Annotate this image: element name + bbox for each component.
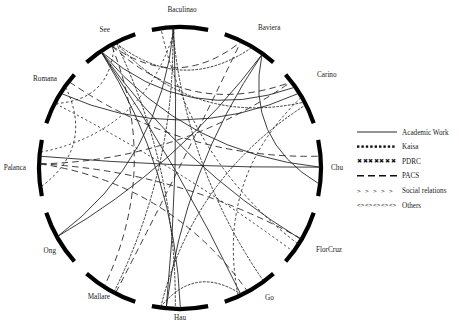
legend-sample-x: ✖ (379, 158, 384, 164)
chord-go-baculinao[interactable] (173, 28, 263, 280)
legend-sample-chevron: > (373, 187, 377, 194)
legend-label-social-relations: Social relations (402, 187, 447, 195)
legend-sample-x: ✖ (357, 158, 362, 164)
node-label-chu: Chu (331, 164, 343, 172)
node-arc-see[interactable] (87, 34, 136, 62)
legend-label-others: Others (402, 202, 421, 210)
legend-sample-dot (357, 145, 359, 147)
legend-sample-dot (370, 145, 372, 147)
node-arc-chu[interactable] (318, 140, 321, 196)
legend-sample-dot (375, 145, 377, 147)
node-label-baculinao: Baculinao (167, 6, 197, 14)
node-label-hau: Hau (174, 314, 186, 322)
legend-sample-dot (379, 145, 381, 147)
legend-sample-x: ✖ (385, 158, 390, 164)
legend-sample-chevron: > (389, 187, 393, 194)
legend-label-academic-work: Academic Work (402, 129, 449, 137)
node-label-go: Go (265, 294, 274, 302)
legend-sample-dot (383, 145, 385, 147)
legend-sample-diamond: <> (381, 201, 389, 208)
legend-sample-diamond: <> (389, 201, 397, 208)
chord-romana-palanca[interactable] (41, 87, 75, 186)
legend-sample-diamond: <> (373, 201, 381, 208)
node-label-palanca: Palanca (4, 164, 27, 172)
chord-palanca-carino[interactable] (40, 82, 291, 164)
chord-see-baviera[interactable] (116, 43, 251, 70)
chord-chu-baviera[interactable] (259, 55, 319, 184)
legend-sample-dot (392, 145, 394, 147)
chord-hau-go[interactable] (161, 282, 241, 307)
node-label-florcruz: FlorCruz (316, 246, 342, 254)
node-arc-palanca[interactable] (39, 140, 42, 196)
legend-sample-x: ✖ (391, 158, 396, 164)
chord-florcruz-baculinao[interactable] (161, 29, 298, 243)
legend-item-kaisa[interactable]: Kaisa (357, 143, 419, 151)
legend-sample-chevron: > (381, 187, 385, 194)
chord-go-carino[interactable] (233, 98, 301, 296)
chord-hau-baviera[interactable] (166, 55, 262, 308)
legend-item-social-relations[interactable]: >>>>>Social relations (357, 187, 447, 195)
legend-sample-chevron: > (365, 187, 369, 194)
node-label-carino: Carino (317, 71, 337, 79)
node-label-romana: Romana (33, 75, 58, 83)
legend-sample-chevron: > (357, 187, 361, 194)
chord-see-baviera[interactable] (112, 42, 241, 68)
node-label-ong: Ong (44, 247, 57, 255)
legend: Academic WorkKaisa✖✖✖✖✖✖✖PDRCPACS>>>>>So… (357, 129, 449, 210)
legend-sample-x: ✖ (374, 158, 379, 164)
legend-sample-x: ✖ (363, 158, 368, 164)
chord-palanca-go[interactable] (40, 164, 247, 291)
legend-sample-diamond: <> (357, 201, 365, 208)
node-arcs-layer (39, 27, 321, 309)
node-label-baviera: Baviera (258, 24, 281, 32)
legend-item-others[interactable]: <><><><><>Others (357, 201, 421, 209)
chord-see-florcruz[interactable] (101, 52, 300, 239)
chord-mallare-baviera[interactable] (116, 42, 241, 293)
node-label-see: See (100, 26, 110, 34)
legend-label-pacs: PACS (402, 172, 419, 180)
legend-item-pdrc[interactable]: ✖✖✖✖✖✖✖PDRC (357, 158, 421, 166)
legend-sample-dot (366, 145, 368, 147)
legend-label-pdrc: PDRC (402, 158, 421, 166)
chord-see-carino[interactable] (116, 43, 303, 108)
legend-sample-diamond: <> (365, 201, 373, 208)
chord-diagram-canvas: BaculinaoBavieraCarinoChuFlorCruzGoHauMa… (0, 0, 459, 333)
legend-sample-dot (361, 145, 363, 147)
chord-diagram-figure: BaculinaoBavieraCarinoChuFlorCruzGoHauMa… (0, 0, 459, 333)
node-label-mallare: Mallare (88, 293, 110, 301)
chords-layer (40, 28, 320, 308)
legend-item-academic-work[interactable]: Academic Work (357, 129, 449, 137)
legend-sample-x: ✖ (368, 158, 373, 164)
legend-sample-dot (388, 145, 390, 147)
legend-label-kaisa: Kaisa (402, 143, 419, 151)
node-arc-baculinao[interactable] (152, 27, 208, 30)
legend-item-pacs[interactable]: PACS (357, 172, 419, 180)
